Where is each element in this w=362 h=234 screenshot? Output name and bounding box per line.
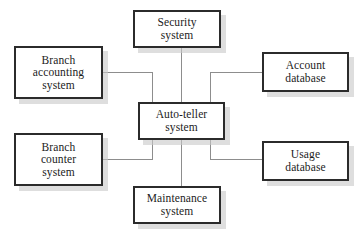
node-label: Account database [283,59,327,84]
node-usage-database[interactable]: Usage database [262,141,349,181]
wire-account-database-to-auto-teller [211,73,263,103]
node-label: Branch counter system [39,141,78,179]
wire-branch-accounting-to-auto-teller [103,73,153,103]
node-security-system[interactable]: Security system [133,10,221,48]
node-branch-accounting-system[interactable]: Branch accounting system [14,46,103,99]
node-label: Branch accounting system [31,54,86,92]
node-maintenance-system[interactable]: Maintenance system [133,186,221,224]
node-label: Usage database [283,148,327,173]
node-label: Security system [155,16,198,41]
node-account-database[interactable]: Account database [262,52,349,92]
diagram-canvas: Security system Branch accounting system… [0,0,362,234]
node-label: Auto-teller system [154,108,210,133]
node-branch-counter-system[interactable]: Branch counter system [14,133,103,186]
node-label: Maintenance system [145,192,210,217]
node-auto-teller-system[interactable]: Auto-teller system [138,102,225,140]
